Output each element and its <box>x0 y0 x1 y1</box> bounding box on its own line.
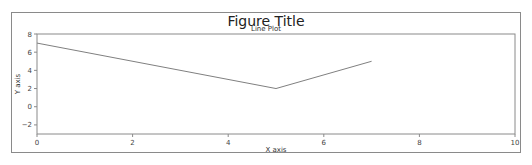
y-axis-label: Y axis <box>14 73 22 95</box>
x-tick-label: 10 <box>511 139 520 147</box>
x-tick-label: 4 <box>226 139 231 147</box>
y-tick-label: 0 <box>28 103 32 111</box>
y-tick-label: −2 <box>22 121 32 129</box>
data-series <box>37 43 372 88</box>
x-tick-label: 6 <box>322 139 327 147</box>
y-tick-label: 4 <box>28 67 33 75</box>
y-tick-label: 8 <box>28 31 32 39</box>
x-axis-label: X axis <box>265 146 286 154</box>
y-axis-ticks: −202468 <box>22 31 37 130</box>
line-chart: 0246810 −202468 X axis Y axis <box>0 0 532 165</box>
axes-box <box>37 34 515 134</box>
x-tick-label: 0 <box>35 139 39 147</box>
series-line <box>37 43 372 88</box>
y-tick-label: 6 <box>28 49 33 57</box>
y-tick-label: 2 <box>28 85 32 93</box>
x-tick-label: 8 <box>417 139 421 147</box>
x-tick-label: 2 <box>130 139 134 147</box>
